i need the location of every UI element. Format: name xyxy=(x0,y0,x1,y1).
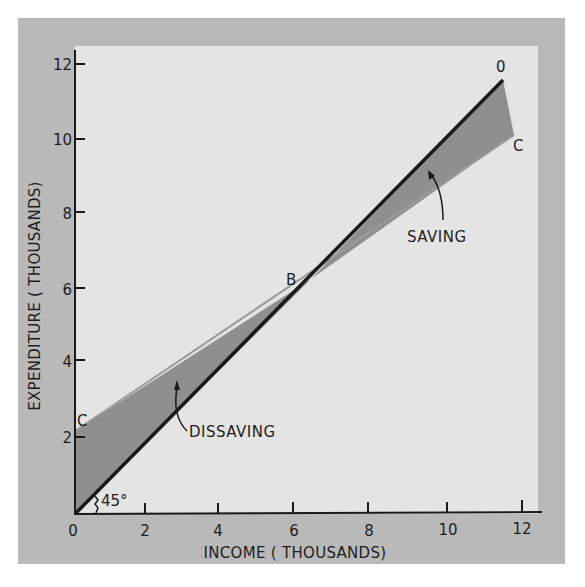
x-tick-label-8: 8 xyxy=(364,522,374,540)
y-tick-label-6: 6 xyxy=(62,281,72,299)
y-tick-label-8: 8 xyxy=(62,205,72,223)
x-axis-title: INCOME ( THOUSANDS) xyxy=(204,544,387,562)
y-tick-label-12: 12 xyxy=(53,56,72,74)
origin-label: 0 xyxy=(68,522,78,540)
y-tick-label-2: 2 xyxy=(62,429,72,447)
angle-label: 45° xyxy=(101,492,128,510)
point-label-o: 0 xyxy=(496,58,506,76)
x-tick-label-12: 12 xyxy=(512,520,531,538)
x-tick-label-2: 2 xyxy=(140,522,150,540)
x-tick-label-6: 6 xyxy=(289,522,299,540)
point-label-b: B xyxy=(286,271,296,289)
point-label-c-right: C xyxy=(513,137,523,155)
y-axis-title: EXPENDITURE ( THOUSANDS) xyxy=(26,181,44,411)
y-tick-label-4: 4 xyxy=(62,353,72,371)
y-tick-label-10: 10 xyxy=(53,131,72,149)
consumption-function-chart: 12 10 8 6 4 2 0 2 4 6 8 10 12 INCOME ( T… xyxy=(0,0,585,587)
point-label-c-left: C xyxy=(77,412,87,430)
x-tick-label-10: 10 xyxy=(438,521,457,539)
x-tick-label-4: 4 xyxy=(213,522,223,540)
saving-label: SAVING xyxy=(407,228,467,246)
dissaving-label: DISSAVING xyxy=(189,423,276,441)
